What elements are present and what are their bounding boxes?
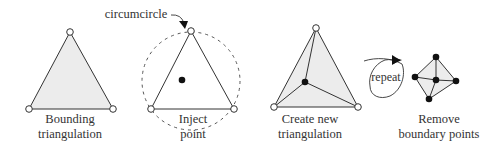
step-label-line2: triangulation [30,127,110,142]
mesh-point-icon [453,78,460,85]
open-vertex-icon [188,28,195,35]
annotation-arrowhead-icon [179,21,188,29]
step-label-line1: Create new [268,112,352,127]
mesh-point-icon [433,77,440,84]
step-label-line1: Bounding [30,112,110,127]
open-vertex-icon [271,104,278,111]
step-label-create: Create new triangulation [268,112,352,142]
injected-point-icon [179,77,186,84]
step-label-bounding: Bounding triangulation [30,112,110,142]
circumcircle-annotation: circumcircle [101,7,171,22]
open-vertex-icon [355,104,362,111]
step-label-inject: Inject point [153,112,233,142]
mesh-point-icon [433,54,440,61]
step-label-line1: Inject [153,112,233,127]
open-vertex-icon [67,29,74,36]
step-label-remove: Remove boundary points [394,112,484,142]
mesh-point-icon [412,74,419,81]
inner-point-icon [302,79,309,86]
repeat-label: repeat [369,70,403,85]
final-mesh-figure [412,54,460,103]
step-label-line2: triangulation [268,127,352,142]
mesh-point-icon [426,96,433,103]
open-vertex-icon [313,25,320,32]
triangulation-diagram: circumcircle repeat Bounding triangulati… [0,0,502,149]
step-label-line1: Remove [394,112,484,127]
open-vertex-icon [110,106,117,113]
new-triangulation-figure [271,25,362,111]
step-label-line2: point [153,127,233,142]
bounding-triangle [26,29,117,113]
step-label-line2: boundary points [394,127,484,142]
